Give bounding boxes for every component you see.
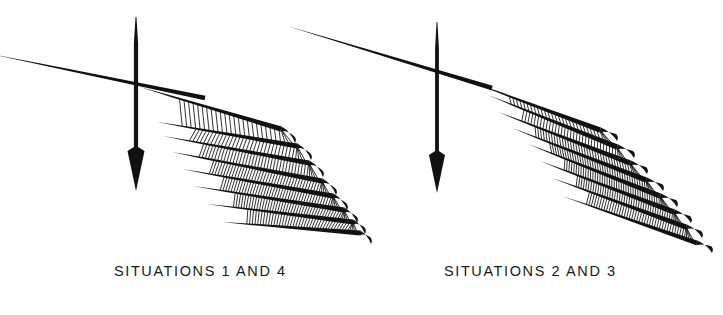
hatch-stroke xyxy=(264,155,267,170)
hatch-stroke xyxy=(569,160,570,172)
hatch-stroke xyxy=(198,104,201,129)
hatch-stroke xyxy=(193,103,196,129)
hatch-stroke xyxy=(189,101,192,127)
blade xyxy=(528,144,661,199)
hatch-stroke xyxy=(189,129,196,141)
hatch-stroke xyxy=(579,176,580,188)
hatch-stroke xyxy=(571,161,572,173)
hatch-stroke xyxy=(567,159,568,171)
hatch-stroke xyxy=(576,175,577,187)
hatch-stroke xyxy=(576,163,577,175)
hatch-stroke xyxy=(590,181,591,192)
hatch-stroke xyxy=(184,100,187,127)
hatch-stroke xyxy=(241,194,243,208)
hatch-stroke xyxy=(535,126,536,137)
downward-arrow xyxy=(128,17,145,191)
hatch-stroke xyxy=(599,196,602,209)
panel-right xyxy=(287,22,713,253)
caption-situations-1-and-4: SITUATIONS 1 AND 4 xyxy=(114,263,287,279)
hatch-stroke xyxy=(611,201,614,213)
hatch-stroke xyxy=(276,213,279,226)
blade-tip-hook xyxy=(309,161,324,177)
figure-root: SITUATIONS 1 AND 4 SITUATIONS 2 AND 3 xyxy=(0,0,723,315)
hatch-stroke xyxy=(594,194,597,207)
hatch-stroke xyxy=(261,155,264,169)
hatch-stroke xyxy=(564,159,565,171)
hatch-stroke xyxy=(619,204,622,216)
hatch-stroke xyxy=(211,108,214,132)
hatch-stroke xyxy=(285,159,288,174)
hatch-stroke xyxy=(534,114,536,126)
hatch-stroke xyxy=(624,205,627,217)
hatch-stroke xyxy=(525,111,527,123)
hatch-stroke xyxy=(263,211,265,225)
hatch-stroke xyxy=(243,118,245,137)
hatch-stroke xyxy=(257,140,261,154)
hatch-stroke xyxy=(259,197,262,210)
hatch-stroke xyxy=(267,156,270,171)
hatch-stroke xyxy=(238,194,240,208)
hatch-stroke xyxy=(574,162,575,174)
hatch-stroke xyxy=(216,110,218,133)
hatch-stroke xyxy=(266,212,268,226)
hatch-stroke xyxy=(253,139,257,152)
caption-situations-2-and-3: SITUATIONS 2 AND 3 xyxy=(444,263,617,279)
hatch-stroke xyxy=(267,142,271,156)
hatch-stroke xyxy=(591,194,594,207)
hatch-stroke xyxy=(196,130,203,142)
hatch-stroke xyxy=(540,117,542,128)
oblique-axis-line xyxy=(287,26,493,90)
hatch-stroke xyxy=(282,159,285,174)
hatch-stroke xyxy=(609,188,610,199)
hatch-stroke xyxy=(612,189,613,200)
panel-left xyxy=(0,17,372,244)
hatch-stroke xyxy=(244,194,246,208)
hatch-stroke xyxy=(279,213,282,226)
hatch-stroke xyxy=(578,164,579,176)
hatch-stroke xyxy=(601,197,604,210)
hatch-stroke xyxy=(249,195,252,209)
hatch-stroke xyxy=(233,193,235,208)
hatch-stroke xyxy=(254,154,257,168)
hatch-stroke xyxy=(546,119,548,130)
hatch-stroke xyxy=(251,153,254,167)
hatch-stroke xyxy=(271,212,273,226)
hatch-stroke xyxy=(552,121,554,132)
hatch-stroke xyxy=(247,209,248,224)
hatch-stroke xyxy=(239,151,243,165)
hatch-stroke xyxy=(251,196,254,210)
hatch-stroke xyxy=(543,129,544,140)
blade xyxy=(552,178,687,229)
hatch-stroke xyxy=(621,204,624,216)
blade xyxy=(140,87,282,131)
hatch-stroke xyxy=(558,124,560,135)
hatch-stroke xyxy=(626,206,629,218)
hatch-stroke xyxy=(238,116,240,136)
hatch-stroke xyxy=(264,198,267,211)
hatch-stroke xyxy=(581,177,582,188)
hatch-stroke xyxy=(257,154,260,168)
hatch-stroke xyxy=(581,165,582,177)
hatch-stroke xyxy=(234,115,236,136)
hatch-stroke xyxy=(258,210,260,224)
hatch-stroke xyxy=(262,197,265,210)
hatch-stroke xyxy=(279,158,282,173)
hatch-stroke xyxy=(586,192,589,205)
hatch-stroke xyxy=(245,152,249,166)
blade-tip-hook xyxy=(360,231,372,244)
hatch-stroke xyxy=(616,203,619,215)
hatch-stroke xyxy=(593,182,594,193)
hatch-stroke xyxy=(598,183,599,194)
hatch-stroke xyxy=(250,209,251,224)
hatch-stroke xyxy=(179,99,182,127)
hatch-stroke xyxy=(605,186,606,197)
downward-arrow xyxy=(429,22,445,193)
hatch-stroke xyxy=(276,157,279,172)
hatch-stroke xyxy=(248,152,252,166)
hatch-stroke xyxy=(246,195,248,209)
hatch-stroke xyxy=(531,113,533,125)
hatch-stroke xyxy=(249,139,253,152)
hatch-stroke xyxy=(596,195,599,208)
hatch-stroke xyxy=(538,127,539,138)
hatch-stroke xyxy=(589,193,592,206)
